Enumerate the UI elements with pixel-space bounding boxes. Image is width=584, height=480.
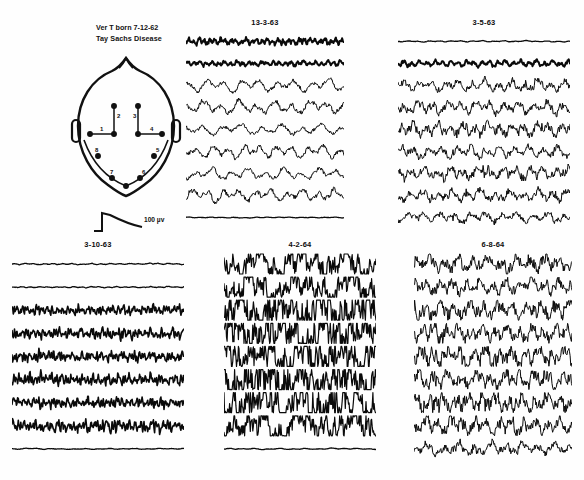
panel-title: 3-10-63 bbox=[12, 240, 184, 249]
eeg-channel-trace bbox=[186, 187, 344, 204]
eeg-channel-trace bbox=[224, 300, 376, 320]
eeg-channel-trace bbox=[186, 123, 344, 136]
eeg-channel-trace bbox=[398, 164, 570, 183]
panel-title: 4-2-64 bbox=[224, 240, 376, 249]
eeg-channel-trace bbox=[398, 120, 570, 139]
eeg-channel-trace bbox=[12, 419, 184, 435]
svg-text:3: 3 bbox=[133, 113, 137, 119]
eeg-traces bbox=[398, 31, 570, 229]
eeg-channel-trace bbox=[186, 167, 344, 181]
eeg-channel-trace bbox=[398, 41, 570, 43]
eeg-traces bbox=[186, 31, 344, 229]
eeg-channel-trace bbox=[224, 277, 376, 297]
eeg-channel-trace bbox=[414, 300, 572, 320]
patient-header: Ver T born 7-12-62 Tay Sachs Disease bbox=[96, 22, 162, 44]
eeg-panel-6-8-64: 6-8-64 bbox=[414, 240, 572, 462]
svg-text:8: 8 bbox=[95, 147, 99, 153]
eeg-channel-trace bbox=[12, 448, 184, 449]
trace-stack bbox=[12, 253, 184, 461]
patient-name-dob: Ver T born 7-12-62 bbox=[96, 22, 162, 33]
patient-diagnosis: Tay Sachs Disease bbox=[96, 33, 162, 44]
eeg-traces bbox=[414, 253, 572, 461]
eeg-channel-trace bbox=[186, 217, 344, 218]
eeg-channel-trace bbox=[414, 416, 572, 436]
eeg-channel-trace bbox=[414, 346, 572, 366]
eeg-channel-trace bbox=[186, 78, 344, 94]
svg-text:1: 1 bbox=[100, 126, 104, 132]
eeg-channel-trace bbox=[186, 144, 344, 160]
eeg-channel-trace bbox=[12, 263, 184, 265]
svg-text:4: 4 bbox=[150, 126, 154, 132]
eeg-channel-trace bbox=[12, 370, 184, 387]
svg-text:7: 7 bbox=[110, 169, 114, 175]
trace-stack bbox=[398, 31, 570, 229]
eeg-panel-3-5-63: 3-5-63 bbox=[398, 18, 570, 230]
calibration-label: 100 µv bbox=[144, 216, 164, 223]
eeg-figure: Ver T born 7-12-62 Tay Sachs Disease 23 … bbox=[0, 0, 584, 480]
eeg-channel-trace bbox=[224, 346, 376, 366]
svg-text:2: 2 bbox=[117, 113, 121, 119]
trace-stack bbox=[414, 253, 572, 461]
eeg-channel-trace bbox=[398, 59, 570, 68]
eeg-channel-trace bbox=[224, 393, 376, 413]
panel-title: 13-3-63 bbox=[186, 18, 344, 27]
eeg-channel-trace bbox=[398, 144, 570, 160]
eeg-channel-trace bbox=[414, 277, 572, 297]
eeg-channel-trace bbox=[414, 439, 572, 457]
eeg-channel-trace bbox=[224, 416, 376, 436]
eeg-channel-trace bbox=[12, 286, 184, 288]
head-montage-diagram: 23 14 85 76 bbox=[62, 52, 190, 204]
eeg-channel-trace bbox=[186, 37, 344, 46]
eeg-channel-trace bbox=[12, 396, 184, 409]
eeg-panel-4-2-64: 4-2-64 bbox=[224, 240, 376, 462]
eeg-channel-trace bbox=[186, 98, 344, 115]
head-outline-icon: 23 14 85 76 bbox=[62, 52, 190, 204]
eeg-channel-trace bbox=[12, 327, 184, 342]
calibration-pulse-icon bbox=[92, 207, 187, 233]
eeg-channel-trace bbox=[414, 323, 572, 343]
eeg-channel-trace bbox=[414, 370, 572, 390]
eeg-traces bbox=[224, 253, 376, 461]
eeg-channel-trace bbox=[398, 76, 570, 93]
eeg-channel-trace bbox=[224, 323, 376, 343]
eeg-channel-trace bbox=[398, 212, 570, 225]
eeg-channel-trace bbox=[414, 254, 572, 274]
eeg-traces bbox=[12, 253, 184, 461]
eeg-channel-trace bbox=[398, 186, 570, 203]
panel-title: 3-5-63 bbox=[398, 18, 570, 27]
trace-stack bbox=[224, 253, 376, 461]
calibration-marker: 100 µv bbox=[92, 207, 187, 233]
eeg-channel-trace bbox=[224, 254, 376, 274]
eeg-channel-trace bbox=[398, 99, 570, 117]
eeg-channel-trace bbox=[414, 393, 572, 413]
eeg-channel-trace bbox=[186, 60, 344, 67]
eeg-panel-13-3-63: 13-3-63 bbox=[186, 18, 344, 230]
eeg-panel-3-10-63: 3-10-63 bbox=[12, 240, 184, 462]
eeg-channel-trace bbox=[12, 304, 184, 316]
eeg-channel-trace bbox=[224, 448, 376, 450]
eeg-channel-trace bbox=[224, 370, 376, 390]
svg-text:5: 5 bbox=[156, 147, 160, 153]
panel-title: 6-8-64 bbox=[414, 240, 572, 249]
trace-stack bbox=[186, 31, 344, 229]
eeg-channel-trace bbox=[12, 348, 184, 363]
